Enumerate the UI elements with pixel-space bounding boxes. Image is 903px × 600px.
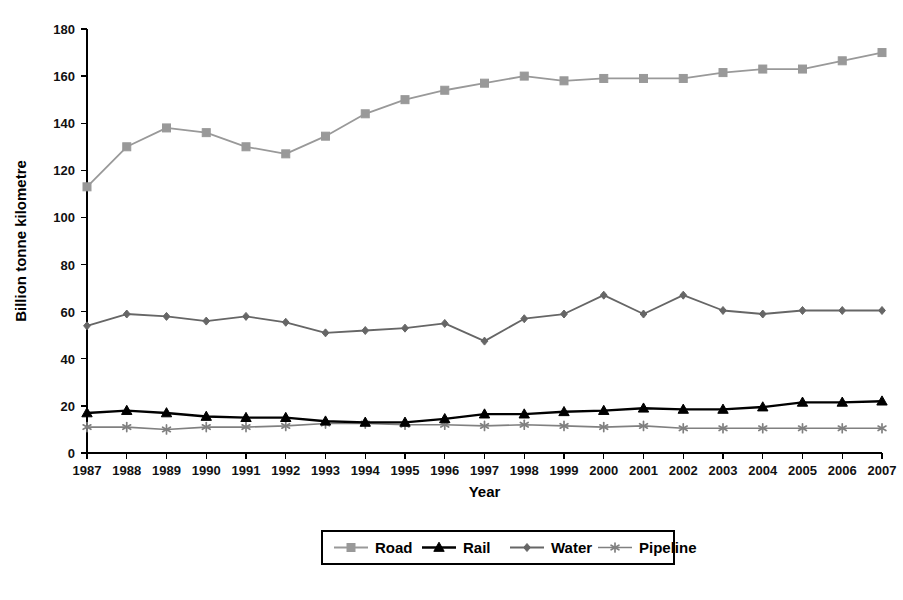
x-tick-label: 1994 [351, 463, 381, 478]
data-point-road [123, 143, 131, 151]
data-point-road [163, 124, 171, 132]
data-point-road [878, 49, 886, 57]
y-tick-label: 60 [61, 305, 75, 320]
data-point-road [520, 72, 528, 80]
data-point-water [163, 312, 170, 320]
x-tick-label: 1987 [73, 463, 102, 478]
data-point-road [719, 69, 727, 77]
data-point-water [521, 315, 528, 323]
chart-figure: 0204060801001201401601801987198819891990… [0, 0, 903, 600]
x-tick-label: 2004 [748, 463, 778, 478]
y-tick-label: 40 [61, 352, 75, 367]
x-axis-title: Year [469, 483, 501, 500]
x-tick-label: 1993 [311, 463, 340, 478]
data-point-road [242, 143, 250, 151]
legend-label-water: Water [551, 539, 592, 556]
y-tick-label: 80 [61, 258, 75, 273]
x-tick-label: 1989 [152, 463, 181, 478]
y-tick-label: 140 [53, 116, 75, 131]
data-point-road [640, 74, 648, 82]
data-point-water [402, 324, 409, 332]
data-point-water [600, 291, 607, 299]
data-point-water [879, 306, 886, 314]
data-point-water [322, 329, 329, 337]
line-chart: 0204060801001201401601801987198819891990… [0, 0, 903, 600]
x-tick-label: 1995 [391, 463, 420, 478]
y-tick-label: 160 [53, 69, 75, 84]
y-tick-label: 120 [53, 163, 75, 178]
x-tick-label: 1991 [232, 463, 261, 478]
data-point-road [202, 129, 210, 137]
legend-label-road: Road [375, 539, 413, 556]
data-point-water [720, 306, 727, 314]
data-point-road [322, 132, 330, 140]
data-point-water [839, 306, 846, 314]
data-point-road [679, 74, 687, 82]
x-tick-label: 1996 [430, 463, 459, 478]
data-point-water [680, 291, 687, 299]
data-point-road [838, 57, 846, 65]
x-tick-label: 1990 [192, 463, 221, 478]
data-point-water [84, 322, 91, 330]
data-point-road [282, 150, 290, 158]
data-point-water [203, 317, 210, 325]
x-tick-label: 2000 [589, 463, 618, 478]
x-tick-label: 2001 [629, 463, 658, 478]
data-point-water [640, 310, 647, 318]
data-point-water [243, 312, 250, 320]
data-point-road [481, 79, 489, 87]
data-point-road [799, 65, 807, 73]
legend-label-pipeline: Pipeline [639, 539, 697, 556]
x-tick-label: 2005 [788, 463, 817, 478]
x-tick-label: 2006 [828, 463, 857, 478]
y-tick-label: 20 [61, 399, 75, 414]
data-point-road [600, 74, 608, 82]
x-tick-label: 1998 [510, 463, 539, 478]
y-tick-label: 180 [53, 22, 75, 37]
data-point-water [561, 310, 568, 318]
x-tick-label: 2003 [709, 463, 738, 478]
data-point-road [759, 65, 767, 73]
data-point-water [362, 327, 369, 335]
data-point-road [83, 183, 91, 191]
x-tick-label: 1992 [271, 463, 300, 478]
legend-marker-road [347, 544, 355, 552]
x-tick-label: 2007 [868, 463, 897, 478]
data-point-road [361, 110, 369, 118]
data-point-water [759, 310, 766, 318]
data-point-water [441, 319, 448, 327]
x-tick-label: 2002 [669, 463, 698, 478]
y-tick-label: 100 [53, 210, 75, 225]
data-point-water [282, 318, 289, 326]
data-point-water [481, 337, 488, 345]
data-point-road [401, 96, 409, 104]
x-tick-label: 1999 [550, 463, 579, 478]
x-tick-label: 1988 [112, 463, 141, 478]
legend-label-rail: Rail [463, 539, 491, 556]
y-axis-title: Billion tonne kilometre [12, 160, 29, 322]
data-point-water [799, 306, 806, 314]
y-tick-label: 0 [68, 446, 75, 461]
data-point-water [123, 310, 130, 318]
data-point-road [441, 86, 449, 94]
data-point-road [560, 77, 568, 85]
x-tick-label: 1997 [470, 463, 499, 478]
